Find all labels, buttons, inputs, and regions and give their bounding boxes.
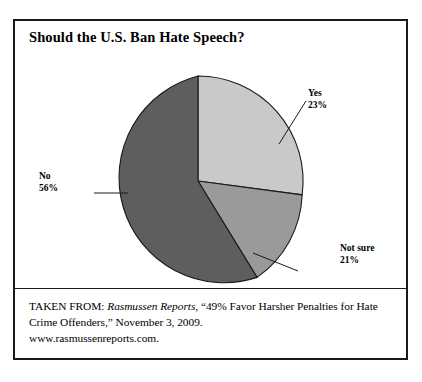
citation-divider: [15, 288, 406, 289]
pie-label-yes-name: Yes: [308, 88, 327, 100]
pie-label-not-sure: Not sure 21%: [340, 243, 374, 266]
figure-panel: Should the U.S. Ban Hate Speech? Yes 23%…: [13, 19, 408, 360]
pie-label-no: No 56%: [39, 171, 58, 194]
pie-slice-yes: [198, 76, 303, 195]
pie-label-not-sure-percent: 21%: [340, 255, 374, 267]
pie-slices: [119, 76, 303, 283]
pie-label-no-percent: 56%: [39, 183, 58, 195]
citation-prefix: TAKEN FROM:: [29, 300, 107, 312]
pie-label-not-sure-name: Not sure: [340, 243, 374, 255]
pie-label-yes-percent: 23%: [308, 100, 327, 112]
pie-label-no-name: No: [39, 171, 58, 183]
citation-url: www.rasmussenreports.com.: [29, 330, 397, 346]
citation-source-title: Rasmussen Reports: [107, 300, 195, 312]
pie-label-yes: Yes 23%: [308, 88, 327, 111]
source-citation: TAKEN FROM: Rasmussen Reports, “49% Favo…: [29, 298, 397, 347]
